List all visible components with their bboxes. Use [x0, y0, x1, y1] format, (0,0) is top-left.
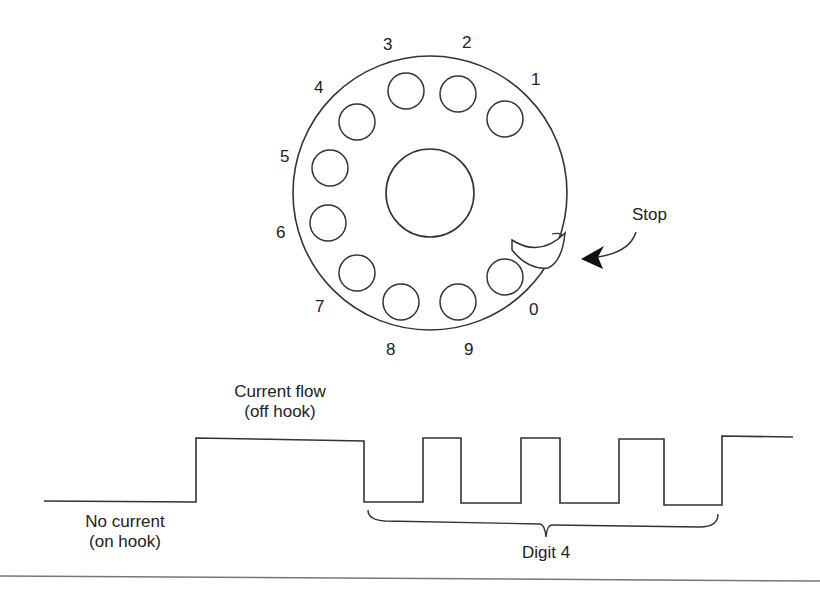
no-current-line1: No current — [85, 512, 164, 532]
dial-center-hub — [386, 149, 474, 237]
finger-hole-4 — [339, 104, 375, 140]
finger-hole-6 — [310, 205, 346, 241]
rotary-dial-diagram — [0, 0, 820, 595]
finger-stop-icon — [512, 233, 565, 268]
digit-label-3: 3 — [383, 35, 392, 55]
digit-label-1: 1 — [531, 70, 540, 90]
finger-hole-8 — [383, 284, 419, 320]
dialing-pulse-waveform — [44, 436, 793, 505]
digit-label-6: 6 — [276, 223, 285, 243]
current-flow-line1: Current flow — [234, 382, 326, 402]
finger-holes — [310, 73, 523, 320]
digit-label-5: 5 — [280, 147, 289, 167]
finger-hole-0 — [487, 259, 523, 295]
digit-brace — [368, 510, 718, 537]
digit-label-4: 4 — [314, 78, 323, 98]
digit-label: Digit 4 — [522, 543, 570, 563]
digit-label-2: 2 — [462, 33, 471, 53]
finger-hole-5 — [312, 150, 348, 186]
current-flow-line2: (off hook) — [234, 402, 326, 422]
digit-label-0: 0 — [529, 300, 538, 320]
digit-label-7: 7 — [315, 297, 324, 317]
dial-outer-ring — [293, 56, 567, 330]
finger-hole-9 — [440, 284, 476, 320]
digit-label-9: 9 — [464, 340, 473, 360]
finger-hole-2 — [440, 76, 476, 112]
finger-hole-3 — [388, 73, 424, 109]
no-current-label: No current (on hook) — [85, 512, 164, 552]
digit-label-8: 8 — [386, 340, 395, 360]
no-current-line2: (on hook) — [85, 532, 164, 552]
finger-hole-7 — [339, 255, 375, 291]
stop-label: Stop — [632, 205, 667, 225]
stop-arrow-icon — [581, 232, 636, 269]
current-flow-label: Current flow (off hook) — [234, 382, 326, 422]
finger-hole-1 — [487, 101, 523, 137]
page-rule — [0, 576, 820, 581]
